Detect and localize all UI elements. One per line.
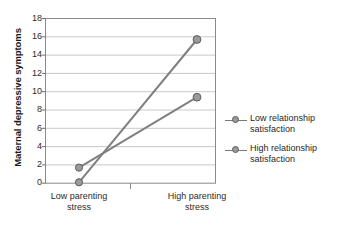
x-tick-label-line1: Low parenting [51,191,108,201]
x-tick-label-line1: High parenting [168,191,227,201]
chart-legend: Low relationship satisfaction High relat… [225,113,353,173]
gridlines [46,19,216,165]
x-tick-label-low-parenting-stress: Low parenting stress [36,191,122,213]
legend-label-line2: satisfaction [250,154,353,165]
x-tick-label-line2: stress [185,202,209,212]
x-tick-label-line2: stress [67,202,91,212]
legend-item-high-relationship-satisfaction: High relationship satisfaction [225,143,353,165]
data-point-marker [75,164,82,171]
series-line-low-relationship-satisfaction [79,40,197,183]
series-line-high-relationship-satisfaction [79,97,197,167]
legend-marker-icon [225,116,247,124]
data-point-marker [75,179,82,186]
chart-figure: Maternal depressive symptoms 18 16 14 12… [0,0,353,225]
x-tick-label-high-parenting-stress: High parenting stress [154,191,240,213]
legend-label-line1: Low relationship [250,113,353,124]
y-tick-marks [42,19,46,184]
legend-item-low-relationship-satisfaction: Low relationship satisfaction [225,113,353,135]
legend-label-line1: High relationship [250,143,353,154]
data-point-marker [193,93,201,101]
legend-marker-icon [225,146,247,154]
data-point-marker [193,36,201,44]
legend-label-line2: satisfaction [250,124,353,135]
